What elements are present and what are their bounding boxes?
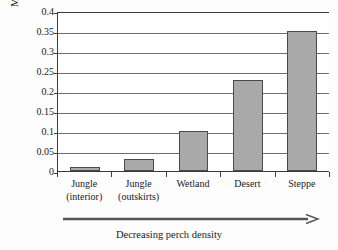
y-axis-tick-label: 0.25 (24, 67, 54, 77)
x-axis-tick-mark (220, 172, 221, 177)
y-axis-tick-mark (54, 13, 58, 14)
y-axis-tick-label: 0.2 (24, 87, 54, 97)
y-axis-tick-label: 0.05 (24, 147, 54, 157)
category-label-line1: Wetland (176, 178, 209, 189)
x-axis-category-labels: Jungle(interior)Jungle(outskirts)Wetland… (57, 178, 329, 208)
x-axis-category-label: Desert (220, 178, 274, 208)
y-axis-tick-labels: 00.050.10.150.20.250.30.350.4 (24, 12, 54, 172)
x-axis-category-label: Jungle(interior) (57, 178, 111, 208)
x-axis-title: Decreasing perch density (0, 228, 338, 241)
y-axis-title: Mean color change (8, 0, 22, 36)
x-axis-category-label: Jungle(outskirts) (111, 178, 165, 208)
category-label-line1: Steppe (288, 178, 315, 189)
category-label-line1: Desert (234, 178, 260, 189)
x-axis-tick-mark (166, 172, 167, 177)
category-label-line1: Jungle (71, 178, 97, 189)
y-axis-tick-label: 0.3 (24, 47, 54, 57)
y-axis-tick-mark (54, 153, 58, 154)
y-axis-tick-label: 0.4 (24, 7, 54, 17)
category-label-line2: (outskirts) (111, 191, 165, 204)
y-axis-tick-mark (54, 73, 58, 74)
bar-slot (221, 13, 275, 171)
plot-area (57, 12, 329, 172)
y-axis-tick-mark (54, 93, 58, 94)
bar-slot (58, 13, 112, 171)
x-axis-tick-mark (275, 172, 276, 177)
y-axis-tick-label: 0.1 (24, 127, 54, 137)
bar (179, 131, 209, 171)
y-axis-tick-mark (54, 33, 58, 34)
x-axis-tick-marks (57, 172, 329, 177)
y-axis-tick-label: 0 (24, 167, 54, 177)
category-label-line1: Jungle (126, 178, 152, 189)
x-axis-category-label: Steppe (275, 178, 329, 208)
category-label-line2: (interior) (57, 191, 111, 204)
bar-slot (112, 13, 166, 171)
bar (233, 80, 263, 171)
x-axis-tick-mark (329, 172, 330, 177)
bar-series (58, 13, 329, 171)
bar-slot (275, 13, 329, 171)
x-axis-tick-mark (111, 172, 112, 177)
bar (70, 167, 100, 171)
x-axis-tick-mark (57, 172, 58, 177)
bar (287, 31, 317, 171)
y-axis-tick-label: 0.15 (24, 107, 54, 117)
y-axis-tick-mark (54, 133, 58, 134)
y-axis-tick-label: 0.35 (24, 27, 54, 37)
decreasing-perch-density-arrow-icon (62, 213, 320, 225)
bar-chart-figure: Mean color change 00.050.10.150.20.250.3… (0, 0, 338, 250)
y-axis-tick-mark (54, 53, 58, 54)
x-axis-category-label: Wetland (166, 178, 220, 208)
y-axis-tick-mark (54, 113, 58, 114)
bar (124, 159, 154, 171)
bar-slot (166, 13, 220, 171)
